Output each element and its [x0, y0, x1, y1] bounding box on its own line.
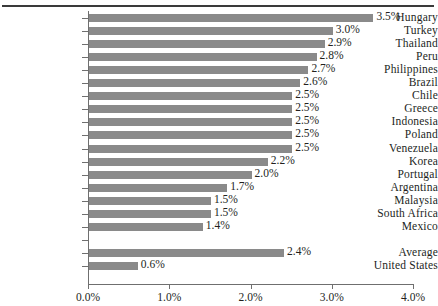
- bar-value-label: 2.5%: [295, 127, 319, 139]
- y-axis-tick: [82, 162, 88, 163]
- bar: [89, 40, 325, 48]
- y-axis-tick: [82, 122, 88, 123]
- x-axis-tick: [332, 284, 333, 289]
- category-label: Indonesia: [354, 115, 438, 127]
- category-label: Brazil: [354, 76, 438, 88]
- chart-row: Philippines2.7%: [0, 64, 438, 77]
- category-label: Malaysia: [354, 194, 438, 206]
- x-axis-tick-label: 2.0%: [239, 291, 263, 303]
- y-axis-tick: [82, 96, 88, 97]
- y-axis-tick: [82, 18, 88, 19]
- y-axis-tick: [82, 149, 88, 150]
- category-label: Portugal: [354, 168, 438, 180]
- bar-value-label: 1.7%: [230, 180, 254, 192]
- y-axis-tick: [82, 227, 88, 228]
- bar-chart: Hungary3.5%Turkey3.0%Thailand2.9%Peru2.8…: [0, 0, 438, 306]
- bar-value-label: 2.6%: [303, 75, 327, 87]
- bar: [89, 14, 373, 22]
- chart-row: Korea2.2%: [0, 156, 438, 169]
- x-axis-tick: [169, 284, 170, 289]
- bar: [89, 118, 292, 126]
- y-axis-tick: [82, 188, 88, 189]
- bar-value-label: 2.2%: [271, 154, 295, 166]
- bar: [89, 27, 333, 35]
- y-axis-tick: [82, 175, 88, 176]
- y-axis-tick: [82, 253, 88, 254]
- category-label: Average: [354, 246, 438, 258]
- bar-value-label: 2.4%: [287, 245, 311, 257]
- y-axis-tick: [82, 201, 88, 202]
- bar-value-label: 1.5%: [214, 193, 238, 205]
- chart-row: Poland2.5%: [0, 129, 438, 142]
- bar-value-label: 3.5%: [376, 10, 400, 22]
- y-axis-tick: [82, 266, 88, 267]
- category-label: Mexico: [354, 220, 438, 232]
- chart-row: Chile2.5%: [0, 90, 438, 103]
- bar-value-label: 1.4%: [206, 219, 230, 231]
- bar: [89, 262, 138, 270]
- bar: [89, 158, 268, 166]
- y-axis-tick: [82, 214, 88, 215]
- category-label: Peru: [354, 50, 438, 62]
- category-label: South Africa: [354, 207, 438, 219]
- y-axis-tick: [82, 83, 88, 84]
- y-axis-tick: [82, 109, 88, 110]
- chart-row-spacer: [0, 234, 438, 247]
- category-label: Argentina: [354, 181, 438, 193]
- bar-value-label: 2.9%: [328, 36, 352, 48]
- y-axis-tick: [82, 57, 88, 58]
- bar: [89, 223, 203, 231]
- chart-row: Peru2.8%: [0, 51, 438, 64]
- y-axis-tick: [82, 240, 88, 241]
- chart-row: Mexico1.4%: [0, 221, 438, 234]
- bar-value-label: 2.0%: [255, 167, 279, 179]
- bar: [89, 145, 292, 153]
- bar: [89, 184, 227, 192]
- bar: [89, 105, 292, 113]
- bar: [89, 197, 211, 205]
- chart-row: Average2.4%: [0, 247, 438, 260]
- x-axis-tick: [251, 284, 252, 289]
- bar: [89, 92, 292, 100]
- y-axis-tick: [82, 31, 88, 32]
- chart-row: Brazil2.6%: [0, 77, 438, 90]
- y-axis-tick: [82, 44, 88, 45]
- bar-value-label: 2.7%: [311, 62, 335, 74]
- x-axis-tick-label: 0.0%: [76, 291, 100, 303]
- bar-value-label: 2.5%: [295, 114, 319, 126]
- bar: [89, 249, 284, 257]
- bar: [89, 53, 317, 61]
- chart-row: Greece2.5%: [0, 103, 438, 116]
- category-label: Korea: [354, 155, 438, 167]
- bar-value-label: 3.0%: [336, 23, 360, 35]
- bar: [89, 171, 252, 179]
- chart-row: Venezuela2.5%: [0, 143, 438, 156]
- plot-area: Hungary3.5%Turkey3.0%Thailand2.9%Peru2.8…: [0, 0, 438, 306]
- bar-value-label: 2.8%: [320, 49, 344, 61]
- chart-row: Portugal2.0%: [0, 169, 438, 182]
- y-axis-tick: [82, 70, 88, 71]
- chart-row: Indonesia2.5%: [0, 116, 438, 129]
- bar: [89, 66, 308, 74]
- bar-value-label: 2.5%: [295, 88, 319, 100]
- x-axis-tick-label: 3.0%: [320, 291, 344, 303]
- category-label: Greece: [354, 102, 438, 114]
- bar-value-label: 2.5%: [295, 141, 319, 153]
- bar-value-label: 1.5%: [214, 206, 238, 218]
- chart-row: United States0.6%: [0, 260, 438, 273]
- x-axis-tick: [88, 284, 89, 289]
- chart-row: Turkey3.0%: [0, 25, 438, 38]
- bar-value-label: 0.6%: [141, 258, 165, 270]
- x-axis-tick-label: 4.0%: [401, 291, 425, 303]
- x-axis-tick: [413, 284, 414, 289]
- x-axis-tick-label: 1.0%: [157, 291, 181, 303]
- chart-row: Thailand2.9%: [0, 38, 438, 51]
- category-label: Turkey: [354, 24, 438, 36]
- category-label: Venezuela: [354, 142, 438, 154]
- bar: [89, 131, 292, 139]
- category-label: Thailand: [354, 37, 438, 49]
- category-label: Poland: [354, 128, 438, 140]
- category-label: United States: [354, 259, 438, 271]
- category-label: Chile: [354, 89, 438, 101]
- bar-value-label: 2.5%: [295, 101, 319, 113]
